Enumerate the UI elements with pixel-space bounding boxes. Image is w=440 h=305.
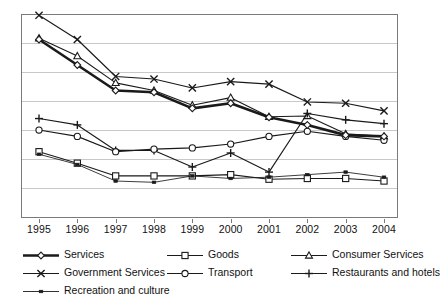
x-axis-label-1997: 1997	[104, 223, 128, 235]
legend-label: Services	[64, 248, 104, 261]
x-axis-label-1995: 1995	[27, 223, 51, 235]
legend-item-restaurants-and-hotels[interactable]: Restaurants and hotels	[289, 265, 440, 279]
legend-item-recreation-and-culture[interactable]: Recreation and culture	[21, 283, 170, 297]
circle-marker-icon	[165, 266, 205, 279]
legend-item-services[interactable]: Services	[21, 247, 104, 261]
legend-label: Goods	[208, 248, 239, 261]
legend-label: Government Services	[64, 266, 165, 279]
small-square-marker-icon	[21, 284, 61, 297]
x-axis-label-2000: 2000	[219, 223, 243, 235]
legend-label: Transport	[208, 266, 253, 279]
triangle-marker-icon	[289, 248, 329, 261]
x-axis-label-1996: 1996	[65, 223, 89, 235]
legend-label: Restaurants and hotels	[332, 266, 440, 279]
x-axis-label-2002: 2002	[295, 223, 319, 235]
x-axis-label-1998: 1998	[142, 223, 166, 235]
legend-item-government-services[interactable]: Government Services	[21, 265, 165, 279]
chart-legend: ServicesGoodsConsumer ServicesGovernment…	[21, 247, 411, 299]
x-axis-label-2001: 2001	[257, 223, 281, 235]
x-axis-label-1999: 1999	[180, 223, 204, 235]
x-axis: 1995199619971998199920002001200220032004	[21, 219, 398, 241]
legend-item-goods[interactable]: Goods	[165, 247, 239, 261]
square-marker-icon	[165, 248, 205, 261]
series-restaurants-and-hotels	[35, 109, 388, 176]
series-layer	[21, 14, 398, 218]
plus-marker-icon	[289, 266, 329, 279]
legend-item-consumer-services[interactable]: Consumer Services	[289, 247, 424, 261]
legend-item-transport[interactable]: Transport	[165, 265, 253, 279]
series-goods	[36, 149, 387, 185]
legend-label: Recreation and culture	[64, 284, 170, 297]
x-axis-label-2004: 2004	[372, 223, 396, 235]
series-services	[36, 36, 388, 140]
x-marker-icon	[21, 266, 61, 279]
legend-label: Consumer Services	[332, 248, 424, 261]
x-axis-label-2003: 2003	[334, 223, 358, 235]
diamond-marker-icon	[21, 248, 61, 261]
